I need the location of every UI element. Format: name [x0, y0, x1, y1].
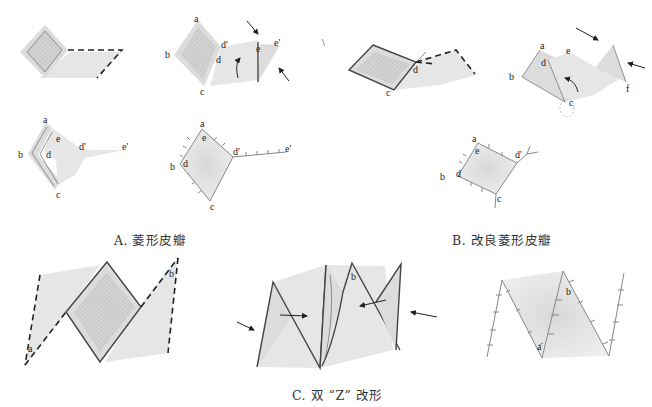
- point-label-d: d: [216, 54, 221, 65]
- panel-a: a b c d d' e e' a b c d d' e e': [18, 13, 291, 212]
- caption-panel-a: A. 菱形皮瓣: [114, 230, 186, 249]
- panel-a-step-2-illustration: a b c d d' e e': [165, 13, 289, 97]
- point-label-e-prime: e': [274, 37, 280, 48]
- panel-b: d c a b c d e f \: [322, 28, 645, 208]
- point-label-e: e: [475, 145, 480, 156]
- point-label-b: b: [566, 286, 571, 297]
- svg-text:\: \: [322, 37, 325, 48]
- point-label-c: c: [56, 189, 61, 200]
- point-label-c: c: [569, 97, 574, 108]
- point-label-c: c: [386, 87, 391, 98]
- point-label-a: a: [472, 133, 477, 144]
- panel-b-step-1-illustration: d c: [349, 45, 476, 98]
- point-label-d: d: [46, 149, 51, 160]
- panel-c-step-3-illustration: a b: [487, 271, 624, 358]
- point-label-a: a: [28, 343, 33, 354]
- point-label-b: b: [170, 161, 175, 172]
- point-label-b: b: [440, 171, 445, 182]
- point-label-b: b: [18, 149, 23, 160]
- point-label-d: d: [456, 168, 461, 179]
- point-label-c: c: [210, 201, 215, 212]
- flap-surgery-figure: a b c d d' e e' a b c d d' e e': [0, 0, 652, 407]
- point-label-e: e: [56, 133, 61, 144]
- panel-a-step-4-illustration: a b c d d' e e': [170, 118, 291, 212]
- point-label-b: b: [509, 71, 514, 82]
- point-label-f: f: [626, 83, 630, 94]
- panel-c: a b b a b: [25, 258, 624, 368]
- point-label-e: e: [202, 132, 207, 143]
- point-label-a: a: [200, 118, 205, 129]
- panel-c-step-1-illustration: a b: [25, 258, 178, 365]
- point-label-a: a: [540, 40, 545, 51]
- point-label-d-prime: d': [79, 141, 86, 152]
- point-label-b: b: [165, 49, 170, 60]
- point-label-a: a: [194, 13, 199, 24]
- panel-a-step-1-illustration: [20, 25, 122, 78]
- point-label-a: a: [537, 341, 542, 352]
- point-label-e: e: [256, 43, 261, 54]
- point-label-b: b: [351, 271, 356, 282]
- point-label-d-prime: d': [515, 149, 522, 160]
- point-label-d: d: [413, 64, 418, 75]
- panel-a-step-3-illustration: a b c d d' e e': [18, 114, 128, 200]
- point-label-e-prime: e': [285, 143, 291, 154]
- point-label-d-prime: d': [233, 146, 240, 157]
- point-label-d: d: [183, 158, 188, 169]
- point-label-e: e: [566, 45, 571, 56]
- point-label-d-prime: d': [221, 39, 228, 50]
- panel-b-step-3-illustration: a b c d d' e: [440, 133, 538, 208]
- point-label-e-prime: e': [122, 141, 128, 152]
- point-label-a: a: [43, 114, 48, 125]
- point-label-c: c: [497, 193, 502, 204]
- caption-panel-c: C. 双 “Z” 改形: [292, 385, 383, 404]
- point-label-c: c: [200, 86, 205, 97]
- point-label-d: d: [541, 57, 546, 68]
- point-label-b: b: [169, 268, 174, 279]
- caption-panel-b: B. 改良菱形皮瓣: [452, 230, 552, 249]
- panel-c-step-2-illustration: b: [237, 263, 437, 368]
